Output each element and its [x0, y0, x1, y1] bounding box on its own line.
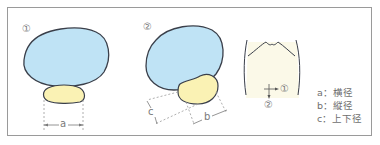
panel-1-marker: ① [22, 24, 31, 34]
body-outline-diagram [244, 40, 300, 99]
legend: a：横径 b：縦径 c：上下径 [317, 86, 362, 125]
measure-a-label: a [60, 119, 66, 129]
legend-item-a: a：横径 [317, 86, 362, 99]
direction-marker-2: ② [264, 100, 273, 110]
measure-c-label: c [148, 107, 154, 117]
bladder-shape-1 [24, 28, 109, 86]
torso-fill [246, 42, 299, 98]
legend-item-c: c：上下径 [317, 112, 362, 125]
panel-2-marker: ② [143, 22, 152, 32]
direction-marker-1: ① [280, 84, 289, 94]
panel-1-diagram [24, 28, 109, 130]
prostate-shape-1 [44, 85, 85, 103]
measure-b-label: b [204, 112, 210, 122]
panel-2-diagram [146, 26, 227, 124]
measure-b-arrow [193, 120, 202, 124]
legend-item-b: b：縦径 [317, 99, 362, 112]
